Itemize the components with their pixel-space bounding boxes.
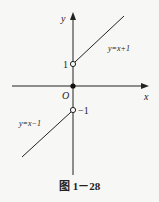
open-point-0-neg1	[70, 107, 75, 112]
figure: y x O 1 −1 y=x+1 y=x−1 图 1－28	[0, 0, 159, 202]
y-axis-label: y	[61, 14, 65, 24]
tick-label-neg1: −1	[78, 106, 89, 116]
figure-caption: 图 1－28	[0, 180, 159, 192]
x-axis-label: x	[144, 92, 148, 102]
tick-label-1: 1	[63, 60, 68, 70]
origin-label: O	[62, 91, 69, 101]
filled-point-origin	[70, 83, 75, 88]
graph	[0, 0, 159, 202]
equation-label-lower: y=x−1	[19, 120, 41, 128]
y-axis-arrow-icon	[70, 12, 76, 20]
x-axis-arrow-icon	[141, 83, 149, 89]
open-point-0-1	[70, 61, 75, 66]
line-y-x-plus-1	[75, 16, 124, 62]
equation-label-upper: y=x+1	[108, 45, 130, 53]
